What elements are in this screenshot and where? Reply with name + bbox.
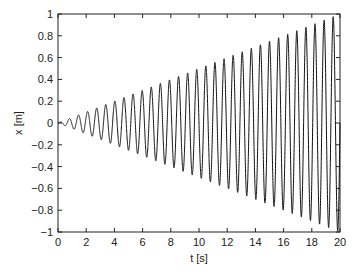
chart: 02468101214161820 10.80.60.40.20−0.2−0.4…	[0, 0, 358, 274]
y-tick-label: 0	[47, 117, 53, 129]
x-tick-label: 10	[193, 236, 205, 248]
y-tick-label: −0.4	[31, 161, 53, 173]
y-tick-label: −1	[40, 226, 53, 238]
y-tick-label: −0.8	[31, 204, 53, 216]
x-tick-label: 4	[111, 236, 117, 248]
x-tick-label: 0	[55, 236, 61, 248]
x-tick-label: 12	[221, 236, 233, 248]
y-tick-label: 0.8	[38, 30, 53, 42]
x-tick-label: 2	[83, 236, 89, 248]
x-tick-label: 14	[249, 236, 261, 248]
x-tick-label: 16	[277, 236, 289, 248]
y-tick-label: 1	[47, 8, 53, 20]
x-tick-label: 18	[306, 236, 318, 248]
x-tick-label: 8	[168, 236, 174, 248]
y-tick-label: 0.6	[38, 52, 53, 64]
y-tick-label: 0.4	[38, 73, 53, 85]
x-axis-label: t [s]	[190, 252, 208, 264]
x-tick-label: 6	[140, 236, 146, 248]
y-tick-label: −0.6	[31, 182, 53, 194]
x-tick-label: 20	[334, 236, 346, 248]
y-axis-label: x [m]	[12, 111, 24, 135]
y-tick-label: −0.2	[31, 139, 53, 151]
y-tick-label: 0.2	[38, 95, 53, 107]
